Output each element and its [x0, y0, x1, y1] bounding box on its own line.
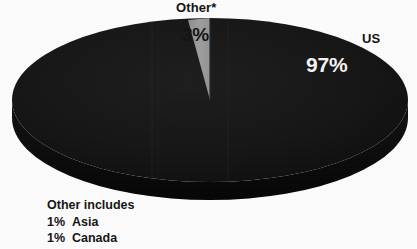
- pie-chart-figure: Other* 3% US 97% Other includes 1%Asia 1…: [0, 0, 417, 249]
- slice-label-other: Other*: [176, 0, 216, 15]
- slice-value-other: 3%: [182, 24, 209, 46]
- footnote-row-canada: 1%Canada: [47, 230, 135, 247]
- footnote-block: Other includes 1%Asia 1%Canada: [47, 197, 135, 247]
- footnote-region-canada: Canada: [72, 231, 117, 245]
- footnote-row-asia: 1%Asia: [47, 214, 135, 231]
- footnote-percent-canada: 1%: [47, 230, 72, 247]
- footnote-heading: Other includes: [47, 197, 135, 214]
- slice-label-us: US: [362, 31, 380, 46]
- footnote-region-asia: Asia: [72, 215, 98, 229]
- slice-value-us: 97%: [306, 53, 347, 77]
- footnote-percent-asia: 1%: [47, 214, 72, 231]
